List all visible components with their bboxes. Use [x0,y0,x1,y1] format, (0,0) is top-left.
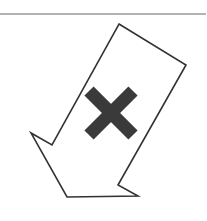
figure-canvas [0,0,207,221]
